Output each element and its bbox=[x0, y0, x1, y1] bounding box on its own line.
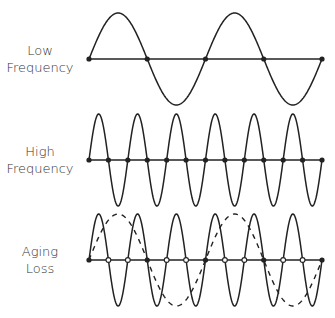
zero-crossing-dot-hollow bbox=[242, 258, 247, 263]
zero-crossing-dot-filled bbox=[222, 157, 227, 162]
zero-crossing-dot-filled bbox=[319, 157, 324, 162]
zero-crossing-dot-hollow bbox=[164, 258, 169, 263]
waveform-diagram bbox=[0, 0, 335, 318]
aging-loss-wave bbox=[86, 214, 324, 306]
zero-crossing-dot-hollow bbox=[300, 258, 305, 263]
zero-crossing-dot-filled bbox=[300, 157, 305, 162]
zero-crossing-dot-filled bbox=[319, 257, 324, 262]
zero-crossing-dot-hollow bbox=[125, 258, 130, 263]
zero-crossing-dot-filled bbox=[106, 157, 111, 162]
zero-crossing-dot-filled bbox=[203, 257, 208, 262]
zero-crossing-dot-filled bbox=[242, 157, 247, 162]
low-frequency-wave bbox=[86, 13, 324, 105]
zero-crossing-dot-hollow bbox=[223, 258, 228, 263]
zero-crossing-dot-filled bbox=[86, 157, 91, 162]
zero-crossing-dot-filled bbox=[86, 257, 91, 262]
high-frequency-wave bbox=[86, 114, 324, 206]
zero-crossing-dot-filled bbox=[125, 157, 130, 162]
zero-crossing-dot-filled bbox=[145, 157, 150, 162]
zero-crossing-dot-filled bbox=[281, 157, 286, 162]
zero-crossing-dot-filled bbox=[86, 56, 91, 61]
zero-crossing-dot-filled bbox=[261, 56, 266, 61]
zero-crossing-dot-filled bbox=[261, 257, 266, 262]
zero-crossing-dot-filled bbox=[203, 56, 208, 61]
zero-crossing-dot-filled bbox=[203, 157, 208, 162]
zero-crossing-dot-filled bbox=[183, 157, 188, 162]
zero-crossing-dot-hollow bbox=[184, 258, 189, 263]
zero-crossing-dot-hollow bbox=[281, 258, 286, 263]
zero-crossing-dot-filled bbox=[261, 157, 266, 162]
zero-crossing-dot-filled bbox=[319, 56, 324, 61]
zero-crossing-dot-filled bbox=[164, 157, 169, 162]
zero-crossing-dot-hollow bbox=[106, 258, 111, 263]
zero-crossing-dot-filled bbox=[145, 56, 150, 61]
zero-crossing-dot-filled bbox=[145, 257, 150, 262]
